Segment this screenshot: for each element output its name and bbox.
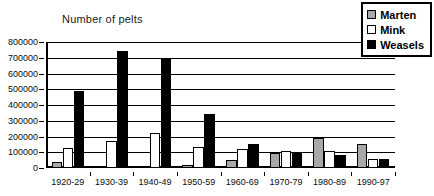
x-tick-mark bbox=[90, 172, 91, 176]
y-tick-label: 400000 bbox=[8, 100, 38, 110]
legend-item-label: Marten bbox=[380, 9, 416, 21]
y-tick-mark bbox=[39, 89, 44, 90]
y-tick-label: 700000 bbox=[8, 53, 38, 63]
y-tick-mark bbox=[39, 121, 44, 122]
y-tick-mark bbox=[39, 137, 44, 138]
bar-group bbox=[177, 42, 221, 168]
bar-marten bbox=[270, 153, 281, 168]
legend-item: Marten bbox=[367, 7, 424, 22]
bar-marten bbox=[226, 160, 237, 168]
chart-legend: MartenMinkWeasels bbox=[361, 2, 432, 57]
y-tick-label: 500000 bbox=[8, 84, 38, 94]
y-tick-mark bbox=[39, 58, 44, 59]
bar-marten bbox=[95, 166, 106, 168]
bar-mink bbox=[368, 159, 379, 168]
x-axis: 1920-291930-391940-491950-591960-691970-… bbox=[46, 172, 395, 194]
bar-group bbox=[264, 42, 308, 168]
bar-mink bbox=[106, 141, 117, 168]
bar-weasels bbox=[292, 153, 303, 168]
bar-weasels bbox=[161, 59, 172, 168]
y-tick-label: 800000 bbox=[8, 37, 38, 47]
y-tick-label: 0 bbox=[33, 163, 38, 173]
pelts-bar-chart: Number of pelts 010000020000030000040000… bbox=[0, 0, 434, 196]
x-tick-label: 1960-69 bbox=[226, 177, 259, 187]
y-tick-mark bbox=[39, 105, 44, 106]
y-tick-label: 100000 bbox=[8, 147, 38, 157]
bar-weasels bbox=[204, 114, 215, 168]
y-tick-mark bbox=[39, 168, 44, 169]
bar-mink bbox=[281, 151, 292, 168]
legend-item-label: Mink bbox=[380, 24, 405, 36]
x-tick-label: 1920-29 bbox=[51, 177, 84, 187]
bar-mink bbox=[150, 133, 161, 168]
x-tick-mark bbox=[264, 172, 265, 176]
x-tick-label: 1930-39 bbox=[95, 177, 128, 187]
x-tick-mark bbox=[351, 172, 352, 176]
x-tick-label: 1990-97 bbox=[357, 177, 390, 187]
legend-item: Weasels bbox=[367, 37, 424, 52]
bars-layer bbox=[46, 42, 395, 168]
bar-weasels bbox=[74, 91, 85, 168]
bar-mink bbox=[324, 151, 335, 168]
y-tick-label: 600000 bbox=[8, 69, 38, 79]
bar-group bbox=[46, 42, 90, 168]
bar-weasels bbox=[335, 155, 346, 168]
bar-group bbox=[351, 42, 395, 168]
x-tick-mark bbox=[221, 172, 222, 176]
bar-marten bbox=[313, 138, 324, 168]
bar-weasels bbox=[248, 144, 259, 168]
bar-marten bbox=[357, 144, 368, 168]
x-tick-mark bbox=[133, 172, 134, 176]
legend-swatch-icon bbox=[367, 25, 376, 34]
y-axis: 0100000200000300000400000500000600000700… bbox=[0, 42, 44, 168]
chart-axis-title: Number of pelts bbox=[62, 13, 143, 25]
bar-mink bbox=[63, 148, 74, 168]
bar-marten bbox=[182, 165, 193, 168]
bar-group bbox=[221, 42, 265, 168]
bar-weasels bbox=[117, 51, 128, 168]
bar-marten bbox=[139, 166, 150, 168]
x-tick-label: 1970-79 bbox=[269, 177, 302, 187]
bar-marten bbox=[52, 162, 63, 168]
x-tick-mark bbox=[308, 172, 309, 176]
bar-group bbox=[133, 42, 177, 168]
y-tick-label: 200000 bbox=[8, 132, 38, 142]
bar-weasels bbox=[379, 159, 390, 168]
x-tick-label: 1950-59 bbox=[182, 177, 215, 187]
bar-group bbox=[308, 42, 352, 168]
x-tick-mark bbox=[177, 172, 178, 176]
x-tick-mark bbox=[395, 172, 396, 176]
y-tick-mark bbox=[39, 42, 44, 43]
legend-swatch-icon bbox=[367, 40, 376, 49]
bar-mink bbox=[193, 147, 204, 168]
x-tick-label: 1940-49 bbox=[139, 177, 172, 187]
y-tick-label: 300000 bbox=[8, 116, 38, 126]
legend-item-label: Weasels bbox=[380, 39, 424, 51]
bar-mink bbox=[237, 149, 248, 168]
y-tick-mark bbox=[39, 74, 44, 75]
legend-item: Mink bbox=[367, 22, 424, 37]
legend-swatch-icon bbox=[367, 10, 376, 19]
x-tick-label: 1980-89 bbox=[313, 177, 346, 187]
bar-group bbox=[90, 42, 134, 168]
y-tick-mark bbox=[39, 152, 44, 153]
